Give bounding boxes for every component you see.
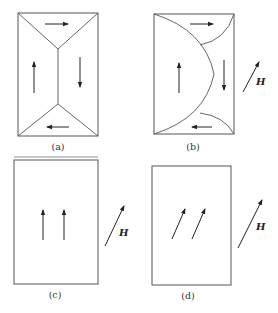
panel-c: H (c) <box>14 160 129 300</box>
domain-wall-curved <box>154 14 214 134</box>
sample-outline <box>152 166 231 285</box>
panel-caption: (d) <box>181 290 195 301</box>
panel-caption: (a) <box>51 141 64 152</box>
magnetization-tilted-arrow-icon <box>172 209 185 239</box>
magnetic-domain-figure: (a) H (b) H (c) H (d) <box>0 0 278 313</box>
domain-wall-curved <box>200 14 234 45</box>
sample-outline <box>14 160 98 284</box>
panel-b: H (b) <box>154 14 266 152</box>
panel-d: H (d) <box>152 166 266 301</box>
panel-caption: (b) <box>186 141 200 152</box>
field-label: H <box>255 76 266 87</box>
domain-wall <box>18 104 98 136</box>
field-label: H <box>255 221 266 232</box>
panel-caption: (c) <box>49 289 62 300</box>
field-label: H <box>118 227 129 238</box>
field-h-arrow-icon <box>105 206 124 246</box>
sample-outline <box>154 14 234 134</box>
panel-a: (a) <box>18 13 98 152</box>
domain-wall-curved <box>200 113 234 134</box>
magnetization-tilted-arrow-icon <box>192 209 205 239</box>
domain-wall <box>18 13 98 49</box>
